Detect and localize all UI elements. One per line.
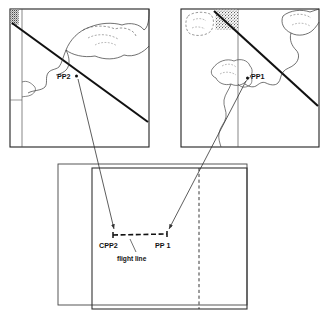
right-photo-principal-point-marker [246,77,249,80]
photogrammetry-figure: PP2 PP1 [0,0,328,316]
map-flight-line [113,234,167,235]
right-aerial-photo: PP1 [181,9,319,147]
left-photo-point-label: PP2 [57,72,71,81]
left-photo-frame [10,9,149,147]
figure-canvas: PP2 PP1 [0,0,328,316]
left-aerial-photo: PP2 [10,9,149,147]
right-photo-corner-patch [216,10,239,30]
map-right-point-label: PP 1 [155,241,170,250]
map-flight-line-label: flight line [117,255,147,263]
map-left-point-label: CPP2 [99,241,118,250]
right-photo-frame [181,9,319,147]
index-map-panel: CPP2 PP 1 flight line [58,164,247,309]
left-photo-corner-patch [11,10,19,25]
left-photo-principal-point-marker [75,75,78,78]
right-photo-point-label: PP1 [251,72,265,81]
